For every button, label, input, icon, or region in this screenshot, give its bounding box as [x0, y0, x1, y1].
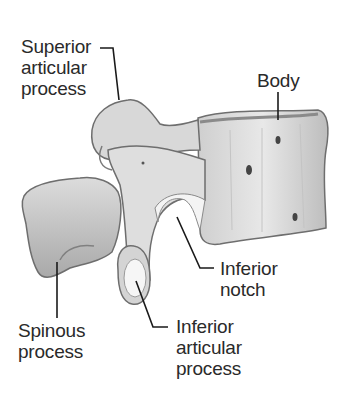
vertebral-body [198, 110, 328, 244]
label-line: Inferior [220, 258, 278, 279]
label-line: articular [176, 337, 242, 358]
label-line: process [18, 341, 85, 362]
label-line: Superior [21, 36, 91, 57]
label-inferior-articular-process: Inferior articular process [176, 316, 242, 379]
label-line: Spinous [18, 320, 85, 341]
label-line: process [21, 78, 91, 99]
label-line: Body [257, 70, 300, 91]
label-body: Body [257, 70, 300, 91]
label-line: process [176, 358, 242, 379]
label-line: articular [21, 57, 91, 78]
vertebra-diagram: Superior articular process Body Inferior… [0, 0, 354, 400]
label-spinous-process: Spinous process [18, 320, 85, 362]
label-line: notch [220, 279, 278, 300]
label-inferior-notch: Inferior notch [220, 258, 278, 300]
label-line: Inferior [176, 316, 242, 337]
inferior-articular-process [118, 246, 150, 305]
leader-superior-articular [100, 48, 119, 100]
spinous-process [22, 178, 121, 278]
label-superior-articular-process: Superior articular process [21, 36, 91, 99]
